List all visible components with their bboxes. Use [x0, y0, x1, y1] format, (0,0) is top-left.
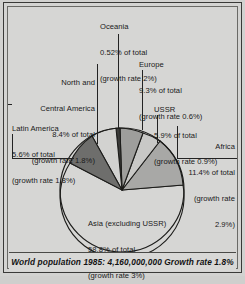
label-asia-growth: (growth rate 3%): [88, 272, 166, 281]
label-africa-growth2: 2.9%): [155, 221, 235, 230]
label-latin-growth: (growth rate 1.8%): [12, 177, 75, 186]
label-africa-share: 11.4% of total: [155, 169, 235, 178]
label-africa-growth: (growth rate: [155, 195, 235, 204]
label-latin-share: 5.6% of total: [12, 151, 75, 160]
footnote-text: World population 1985: 4,160,000,000 Gro…: [11, 257, 233, 267]
label-africa: Africa 11.4% of total (growth rate 2.9%): [155, 126, 235, 246]
label-africa-name: Africa: [155, 143, 235, 152]
label-oceania-name: Oceania: [100, 23, 157, 32]
label-nca-name: North and: [12, 79, 95, 88]
label-europe-name: Europe: [139, 61, 202, 70]
label-latin-america: Latin America 5.6% of total (growth rate…: [12, 108, 75, 203]
label-asia: Asia (excluding USSR) 58.8% of total (gr…: [88, 203, 166, 284]
footnote-bar: World population 1985: 4,160,000,000 Gro…: [9, 252, 236, 271]
label-asia-name: Asia (excluding USSR): [88, 220, 166, 229]
label-latin-name: Latin America: [12, 125, 75, 134]
leader-line-north-central-america: [97, 64, 98, 144]
label-ussr-name: USSR: [154, 106, 217, 115]
